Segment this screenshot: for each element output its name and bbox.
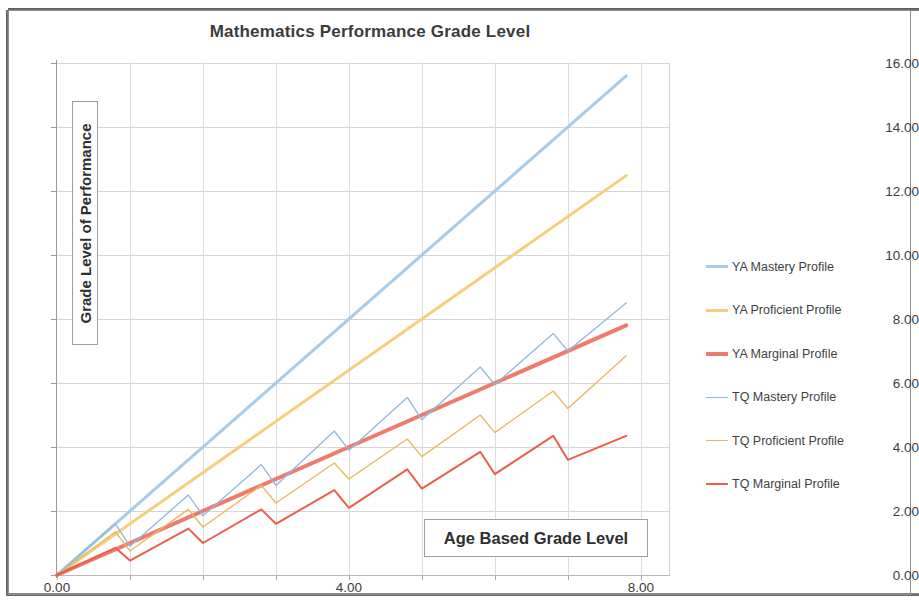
legend-item-label: YA Marginal Profile bbox=[732, 347, 837, 361]
x-axis-tick-label: 8.00 bbox=[628, 580, 654, 595]
legend-swatch-line-icon bbox=[706, 352, 728, 356]
legend-item[interactable]: TQ Marginal Profile bbox=[706, 463, 911, 507]
legend-item-label: YA Proficient Profile bbox=[732, 303, 842, 317]
plot-area bbox=[57, 63, 670, 575]
y-axis-tick-label: 14.00 bbox=[871, 120, 919, 135]
legend-item[interactable]: YA Marginal Profile bbox=[706, 332, 911, 376]
chart-title: Mathematics Performance Grade Level bbox=[0, 22, 740, 42]
series-lines bbox=[57, 63, 670, 575]
legend-item[interactable]: TQ Proficient Profile bbox=[706, 419, 911, 463]
y-axis-tick-label: 16.00 bbox=[871, 56, 919, 71]
legend-swatch-line-icon bbox=[706, 440, 728, 441]
legend: YA Mastery ProfileYA Proficient ProfileY… bbox=[706, 245, 911, 506]
series-line bbox=[57, 176, 626, 575]
x-axis-tick-label: 4.00 bbox=[336, 580, 362, 595]
legend-swatch-line-icon bbox=[706, 309, 728, 312]
page-frame-left-edge bbox=[6, 10, 9, 596]
page-frame-bottom-edge bbox=[8, 593, 919, 596]
x-axis-title: Age Based Grade Level bbox=[424, 519, 648, 557]
y-axis-tick-label: 0.00 bbox=[871, 568, 919, 583]
legend-item-label: TQ Proficient Profile bbox=[732, 434, 844, 448]
legend-item-label: TQ Mastery Profile bbox=[732, 390, 836, 404]
legend-item[interactable]: YA Proficient Profile bbox=[706, 289, 911, 333]
legend-swatch-line-icon bbox=[706, 265, 728, 268]
legend-swatch-line-icon bbox=[706, 483, 728, 485]
y-axis-tick-label: 12.00 bbox=[871, 184, 919, 199]
legend-item-label: TQ Marginal Profile bbox=[732, 477, 840, 491]
legend-swatch-line-icon bbox=[706, 397, 728, 398]
x-axis-line bbox=[57, 575, 670, 576]
page-frame-top-edge bbox=[8, 8, 919, 11]
chart-page: Mathematics Performance Grade Level 0.00… bbox=[0, 0, 919, 605]
legend-item-label: YA Mastery Profile bbox=[732, 260, 834, 274]
y-axis-title-label: Grade Level of Performance bbox=[77, 123, 94, 323]
legend-item[interactable]: YA Mastery Profile bbox=[706, 245, 911, 289]
x-axis-tick-label: 0.00 bbox=[44, 580, 70, 595]
x-axis-title-label: Age Based Grade Level bbox=[444, 529, 628, 548]
legend-item[interactable]: TQ Mastery Profile bbox=[706, 376, 911, 420]
y-axis-title: Grade Level of Performance bbox=[72, 101, 98, 345]
